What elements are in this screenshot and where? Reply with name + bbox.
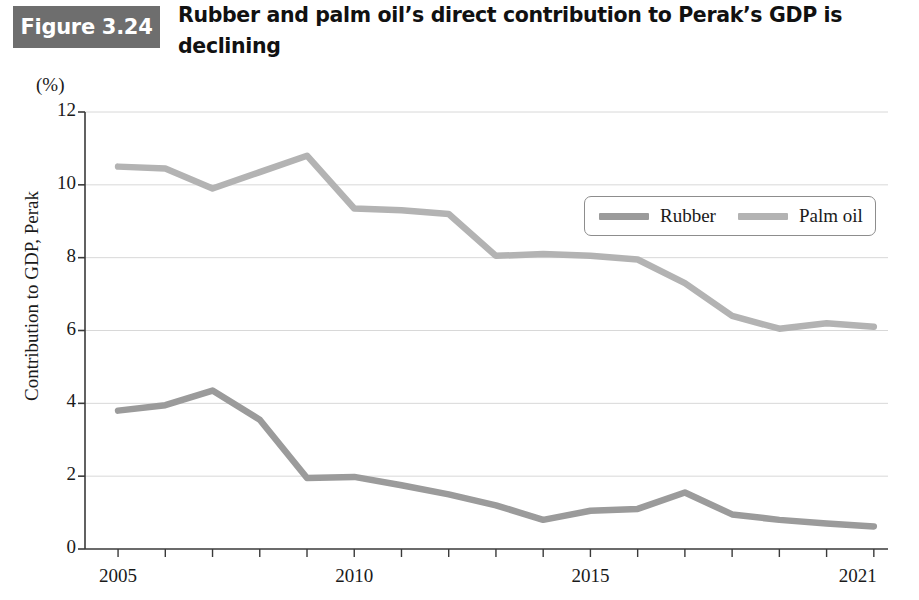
y-tick-label: 10 bbox=[28, 172, 76, 194]
chart-legend: Rubber Palm oil bbox=[584, 196, 876, 236]
legend-item-palm-oil: Palm oil bbox=[738, 205, 863, 227]
x-tick-label: 2005 bbox=[88, 565, 148, 587]
y-tick-label: 0 bbox=[28, 536, 76, 558]
legend-label-rubber: Rubber bbox=[660, 205, 716, 227]
figure-title: Rubber and palm oil’s direct contributio… bbox=[178, 0, 913, 62]
y-tick-label: 2 bbox=[28, 463, 76, 485]
y-tick-label: 6 bbox=[28, 318, 76, 340]
x-tick-label: 2015 bbox=[560, 565, 620, 587]
figure-number-badge: Figure 3.24 bbox=[13, 6, 160, 48]
legend-label-palm-oil: Palm oil bbox=[799, 205, 863, 227]
x-tick-label: 2021 bbox=[828, 565, 888, 587]
y-tick-label: 12 bbox=[28, 99, 76, 121]
legend-swatch-rubber bbox=[599, 213, 649, 220]
x-tick-label: 2010 bbox=[324, 565, 384, 587]
figure-container: Figure 3.24 Rubber and palm oil’s direct… bbox=[0, 0, 919, 600]
y-tick-label: 4 bbox=[28, 390, 76, 412]
y-tick-label: 8 bbox=[28, 245, 76, 267]
legend-swatch-palm-oil bbox=[738, 213, 788, 220]
line-chart: (%) Contribution to GDP, Perak 024681012… bbox=[0, 70, 919, 600]
plot-area bbox=[0, 70, 919, 600]
gridlines bbox=[85, 112, 888, 476]
legend-item-rubber: Rubber bbox=[599, 205, 716, 227]
figure-header: Figure 3.24 Rubber and palm oil’s direct… bbox=[0, 0, 919, 72]
figure-number-label: Figure 3.24 bbox=[21, 15, 153, 39]
